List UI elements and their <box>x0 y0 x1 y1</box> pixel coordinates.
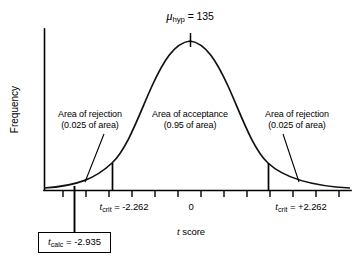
t-crit-negative-sub: crit <box>102 206 111 213</box>
mu-subscript: hyp <box>172 15 185 24</box>
annotation-area-of-acceptance: Area of acceptance (0.95 of area) <box>152 109 228 130</box>
x-axis-title: t score <box>177 226 205 238</box>
mu-value-text: = 135 <box>185 10 214 22</box>
leader-line-left <box>85 134 104 182</box>
annotation-area-of-rejection-left: Area of rejection (0.025 of area) <box>58 109 122 130</box>
y-axis-title: Frequency <box>3 70 25 150</box>
t-crit-negative-value: = -2.262 <box>112 201 149 212</box>
mu-hyp-label: μhyp = 135 <box>166 9 214 24</box>
t-crit-positive-label: tcrit = +2.262 <box>275 201 326 214</box>
t-distribution-figure: Frequency μhyp = 135 Area of rejection (… <box>0 0 356 263</box>
t-calc-value-box: tcalc = -2.935 <box>38 232 111 253</box>
x-axis-title-text: score <box>180 226 205 237</box>
figure-graphics <box>0 0 356 263</box>
annotation-area-of-rejection-right: Area of rejection (0.025 of area) <box>265 109 329 130</box>
t-calc-sub: calc <box>51 241 63 248</box>
annotation-middle-line2: (0.95 of area) <box>152 120 228 131</box>
t-crit-positive-sub: crit <box>278 206 287 213</box>
y-axis-title-text: Frequency <box>9 80 20 140</box>
t-calc-value: = -2.935 <box>63 236 101 247</box>
t-crit-negative-label: tcrit = -2.262 <box>100 201 149 214</box>
annotation-left-line2: (0.025 of area) <box>58 120 122 131</box>
x-axis-center-label: 0 <box>188 201 193 212</box>
t-crit-positive-value: = +2.262 <box>287 201 326 212</box>
annotation-right-line1: Area of rejection <box>265 109 329 120</box>
annotation-middle-line1: Area of acceptance <box>152 109 228 120</box>
annotation-left-line1: Area of rejection <box>58 109 122 120</box>
annotation-right-line2: (0.025 of area) <box>265 120 329 131</box>
